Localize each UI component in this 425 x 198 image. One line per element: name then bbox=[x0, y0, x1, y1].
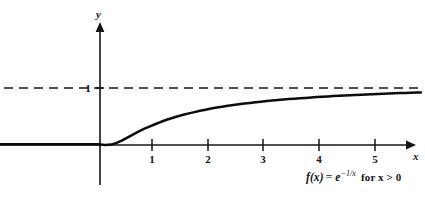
function-graph-figure: 1 2 3 4 5 1 x y f(x)=e−1/xfor x > 0 bbox=[0, 0, 425, 198]
caption-exponent: −1/x bbox=[340, 169, 356, 178]
x-tick-label-3: 3 bbox=[260, 153, 266, 165]
x-tick-label-5: 5 bbox=[372, 153, 378, 165]
x-tick-label-2: 2 bbox=[205, 153, 211, 165]
y-tick-label-1: 1 bbox=[85, 82, 91, 94]
plot-area: 1 2 3 4 5 1 x y bbox=[0, 0, 425, 198]
y-axis-label: y bbox=[94, 8, 101, 20]
x-tick-label-1: 1 bbox=[149, 153, 155, 165]
x-axis-arrowhead bbox=[406, 141, 416, 150]
x-axis-label: x bbox=[412, 150, 419, 162]
y-axis-arrowhead bbox=[96, 22, 105, 32]
caption-function-name: f(x) bbox=[306, 171, 324, 183]
curve-exponential-decay bbox=[100, 92, 421, 145]
caption-equals: = bbox=[326, 171, 333, 183]
caption-condition: for x > 0 bbox=[361, 171, 401, 183]
equation-caption: f(x)=e−1/xfor x > 0 bbox=[306, 171, 401, 183]
x-tick-label-4: 4 bbox=[316, 153, 322, 165]
